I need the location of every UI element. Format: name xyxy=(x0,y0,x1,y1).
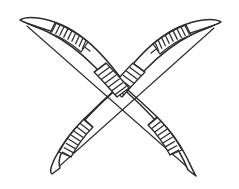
binding-upper-right xyxy=(153,25,191,54)
crossed-bows-drawing xyxy=(0,0,239,189)
illustration-canvas: Line drawing of two crossed bows with wr… xyxy=(0,0,239,189)
binding-upper-left xyxy=(50,23,88,52)
binding-lower-right xyxy=(148,117,182,155)
